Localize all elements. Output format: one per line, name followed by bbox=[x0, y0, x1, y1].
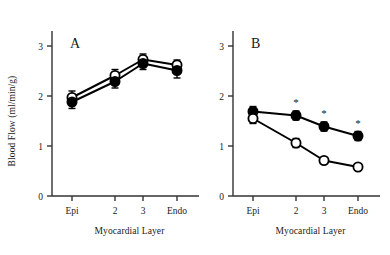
data-point-filled bbox=[319, 122, 328, 131]
data-point-filled bbox=[67, 97, 76, 106]
data-point-open bbox=[319, 156, 328, 165]
y-tick-label: 1 bbox=[219, 142, 224, 152]
x-axis-title: Myocardial Layer bbox=[95, 226, 166, 236]
y-tick-label: 1 bbox=[38, 142, 43, 152]
data-point-open bbox=[248, 114, 257, 123]
y-tick-label: 0 bbox=[219, 192, 224, 202]
y-tick-label: 3 bbox=[38, 42, 43, 52]
x-tick-label: Endo bbox=[348, 206, 368, 216]
x-tick-label: 3 bbox=[141, 206, 146, 216]
panel-b: 0123Epi23EndoMyocardial LayerB*** bbox=[219, 31, 380, 236]
panel-letter: A bbox=[70, 36, 81, 51]
x-tick-label: Epi bbox=[65, 206, 79, 216]
data-point-filled bbox=[138, 59, 147, 68]
data-point-filled bbox=[353, 131, 362, 140]
figure-svg: 0123Epi23EndoMyocardial LayerA0123Epi23E… bbox=[0, 0, 390, 255]
x-tick-label: 2 bbox=[294, 206, 299, 216]
data-point-open bbox=[291, 138, 300, 147]
significance-asterisk: * bbox=[321, 107, 327, 119]
x-axis-title: Myocardial Layer bbox=[276, 226, 347, 236]
y-tick-label: 2 bbox=[38, 92, 43, 102]
data-point-filled bbox=[172, 66, 181, 75]
x-tick-label: Epi bbox=[246, 206, 260, 216]
significance-asterisk: * bbox=[355, 117, 361, 129]
x-tick-label: 2 bbox=[113, 206, 118, 216]
x-tick-label: Endo bbox=[167, 206, 187, 216]
data-point-open bbox=[353, 162, 362, 171]
y-tick-label: 2 bbox=[219, 92, 224, 102]
x-tick-label: 3 bbox=[322, 206, 327, 216]
series-line-open-circle bbox=[253, 119, 358, 168]
panel-letter: B bbox=[251, 36, 260, 51]
data-point-filled bbox=[291, 111, 300, 120]
y-tick-label: 0 bbox=[38, 192, 43, 202]
y-axis-title: Blood Flow (ml/min/g) bbox=[7, 76, 18, 167]
series-line-filled-circle bbox=[253, 112, 358, 137]
series-line-open-circle bbox=[72, 60, 177, 98]
figure-container: 0123Epi23EndoMyocardial LayerA0123Epi23E… bbox=[0, 0, 390, 255]
data-point-filled bbox=[110, 77, 119, 86]
panel-a: 0123Epi23EndoMyocardial LayerA bbox=[38, 31, 199, 236]
significance-asterisk: * bbox=[293, 96, 299, 108]
y-tick-label: 3 bbox=[219, 42, 224, 52]
